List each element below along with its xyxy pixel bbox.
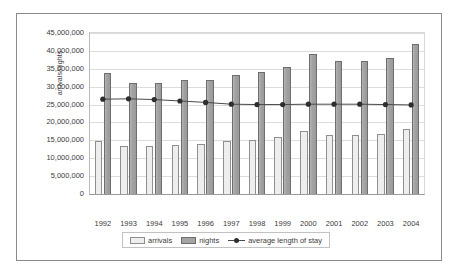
bar-group	[172, 33, 189, 194]
bar-group	[223, 33, 240, 194]
legend-item[interactable]: nights	[181, 236, 219, 245]
bar-arrivals[interactable]	[377, 134, 385, 194]
legend-item[interactable]: arrivals	[130, 236, 172, 245]
legend-swatch-line-icon	[228, 237, 245, 244]
bar-group	[249, 33, 266, 194]
y-axis-tick-label: 20,000,000	[14, 117, 84, 126]
bar-group	[377, 33, 394, 194]
bar-group	[300, 33, 317, 194]
bar-arrivals[interactable]	[197, 144, 205, 194]
bar-group	[120, 33, 137, 194]
bar-nights[interactable]	[386, 58, 394, 194]
bar-nights[interactable]	[335, 61, 343, 194]
plot-area: 45,000,00040,000,00035,000,00030,000,000…	[89, 32, 425, 195]
bar-arrivals[interactable]	[403, 129, 411, 194]
legend-label: average length of stay	[248, 236, 322, 245]
y-axis-tick-label: 15,000,000	[14, 135, 84, 144]
y-axis-tick-label: 30,000,000	[14, 82, 84, 91]
bar-nights[interactable]	[129, 83, 137, 194]
bar-arrivals[interactable]	[120, 146, 128, 194]
bar-group	[352, 33, 369, 194]
bar-nights[interactable]	[155, 83, 163, 194]
y-axis-tick-label: 40,000,000	[14, 46, 84, 55]
bar-group	[197, 33, 214, 194]
y-axis-tick-label: 5,000,000	[14, 171, 84, 180]
legend-item[interactable]: average length of stay	[228, 236, 322, 245]
bar-arrivals[interactable]	[223, 141, 231, 194]
bar-nights[interactable]	[104, 73, 112, 194]
bar-group	[403, 33, 420, 194]
bar-arrivals[interactable]	[95, 141, 103, 194]
bar-nights[interactable]	[232, 75, 240, 194]
bar-arrivals[interactable]	[300, 131, 308, 194]
y-axis-tick-label: 25,000,000	[14, 100, 84, 109]
bar-nights[interactable]	[361, 61, 369, 194]
bar-group	[326, 33, 343, 194]
bar-arrivals[interactable]	[274, 137, 282, 194]
legend-label: arrivals	[148, 236, 172, 245]
legend-swatch-arrivals-icon	[130, 237, 145, 244]
bar-arrivals[interactable]	[146, 146, 154, 194]
y-axis-tick-label: 35,000,000	[14, 64, 84, 73]
bar-arrivals[interactable]	[326, 135, 334, 194]
bar-nights[interactable]	[206, 80, 214, 194]
bar-nights[interactable]	[309, 54, 317, 194]
bar-arrivals[interactable]	[352, 135, 360, 194]
y-axis-tick-label: 0	[14, 189, 84, 198]
bar-group	[274, 33, 291, 194]
bar-arrivals[interactable]	[172, 145, 180, 194]
bar-nights[interactable]	[258, 72, 266, 194]
bar-nights[interactable]	[283, 67, 291, 194]
bar-group	[146, 33, 163, 194]
y-axis-tick-label: 10,000,000	[14, 153, 84, 162]
chart-frame: arrivals/nights 45,000,00040,000,00035,0…	[16, 13, 442, 261]
legend-label: nights	[199, 236, 219, 245]
legend-swatch-nights-icon	[181, 237, 196, 244]
bar-nights[interactable]	[412, 44, 420, 194]
bar-group	[95, 33, 112, 194]
chart-legend: arrivalsnightsaverage length of stay	[122, 232, 330, 248]
x-axis-tick-label: 2004	[396, 219, 426, 228]
y-axis-tick-label: 45,000,000	[14, 28, 84, 37]
bar-nights[interactable]	[181, 80, 189, 194]
bar-arrivals[interactable]	[249, 140, 257, 194]
